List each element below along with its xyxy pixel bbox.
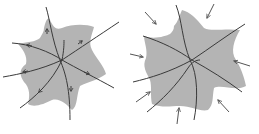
right-arrow-left: [130, 54, 143, 57]
diagram-figure: Two star-shaped shaded regions crossed b…: [0, 0, 259, 134]
right-star-region: [144, 10, 246, 110]
diagram-canvas: [0, 0, 259, 134]
right-panel: [130, 4, 250, 124]
right-arrow-bottom: [177, 108, 179, 124]
left-panel: [3, 7, 119, 120]
right-arrow-bottomleft: [136, 92, 150, 102]
right-arrow-top: [207, 4, 214, 18]
right-arrow-bottomright: [218, 100, 229, 112]
right-arrow-topleft: [145, 12, 156, 24]
